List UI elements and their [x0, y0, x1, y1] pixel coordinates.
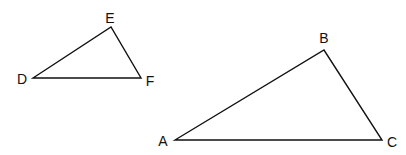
triangle-abc: A B C	[158, 30, 397, 150]
vertex-label-c: C	[387, 134, 397, 150]
triangle-abc-outline	[175, 50, 382, 140]
triangle-def-outline	[33, 27, 141, 78]
vertex-label-b: B	[319, 30, 328, 46]
vertex-label-e: E	[105, 10, 114, 26]
triangle-def: D E F	[17, 10, 154, 89]
vertex-label-d: D	[17, 71, 27, 87]
vertex-label-a: A	[158, 133, 168, 149]
vertex-label-f: F	[146, 73, 155, 89]
similar-triangles-diagram: D E F A B C	[0, 0, 406, 155]
